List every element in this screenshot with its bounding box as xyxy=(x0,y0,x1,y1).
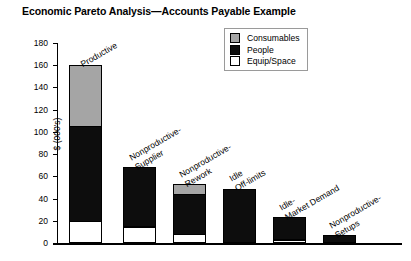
y-axis-tick xyxy=(53,154,57,155)
y-axis-tick-label: 80 xyxy=(39,149,48,159)
y-axis-tick-label: 60 xyxy=(39,171,48,181)
y-axis-tick-label: 40 xyxy=(39,194,48,204)
chart-figure: Economic Pareto Analysis—Accounts Payabl… xyxy=(0,0,411,261)
y-axis-tick-label: 140 xyxy=(34,82,48,92)
legend-item-equip-space: Equip/Space xyxy=(230,56,300,67)
y-axis-tick xyxy=(53,243,57,244)
legend-swatch-consumables-icon xyxy=(230,33,240,43)
x-axis-line xyxy=(53,243,402,245)
bar[interactable] xyxy=(123,167,156,243)
y-axis-tick xyxy=(53,43,57,44)
y-axis-tick-labels: 020406080100120140160180 xyxy=(0,43,48,243)
bar-segment-people xyxy=(173,194,206,234)
y-axis-tick-label: 180 xyxy=(34,38,48,48)
y-axis-tick xyxy=(53,176,57,177)
bar-segment-people xyxy=(123,167,156,227)
legend-item-people: People xyxy=(230,44,300,55)
y-axis-tick-label: 100 xyxy=(34,127,48,137)
bar-segment-equip xyxy=(123,227,156,243)
bar-segment-cons xyxy=(69,65,102,126)
y-axis-tick xyxy=(53,87,57,88)
bar[interactable] xyxy=(273,217,306,243)
bar-segment-equip xyxy=(173,234,206,243)
bar-segment-equip xyxy=(69,221,102,243)
bar[interactable] xyxy=(69,65,102,243)
legend-swatch-people-icon xyxy=(230,45,240,55)
chart-legend: Consumables People Equip/Space xyxy=(224,28,308,71)
legend-label-people: People xyxy=(247,45,274,55)
bar-segment-people xyxy=(69,126,102,220)
y-axis-tick xyxy=(53,65,57,66)
category-label: Nonproductive- Setups xyxy=(327,192,388,239)
bar-segment-equip xyxy=(273,240,306,243)
category-label: Nonproductive- Rework xyxy=(177,141,238,188)
bar-segment-people xyxy=(223,189,256,243)
y-axis-tick xyxy=(53,199,57,200)
y-axis-tick xyxy=(53,221,57,222)
legend-item-consumables: Consumables xyxy=(230,33,300,44)
plot-area: $ (000's) ProductiveNonproductive- Suppl… xyxy=(57,43,402,243)
y-axis-tick-label: 160 xyxy=(34,60,48,70)
chart-title: Economic Pareto Analysis—Accounts Payabl… xyxy=(22,5,296,17)
bar[interactable] xyxy=(223,189,256,243)
y-axis-tick-label: 20 xyxy=(39,216,48,226)
category-label: Nonproductive- Supplier xyxy=(127,125,188,172)
y-axis-tick xyxy=(53,132,57,133)
y-axis-tick xyxy=(53,110,57,111)
legend-swatch-equip-space-icon xyxy=(230,56,240,66)
bar[interactable] xyxy=(173,184,206,243)
y-axis-tick-label: 120 xyxy=(34,105,48,115)
legend-label-consumables: Consumables xyxy=(247,33,300,43)
legend-label-equip-space: Equip/Space xyxy=(247,56,296,66)
y-axis-tick-label: 0 xyxy=(43,238,48,248)
category-label: Idle- Market Demand xyxy=(277,173,340,222)
